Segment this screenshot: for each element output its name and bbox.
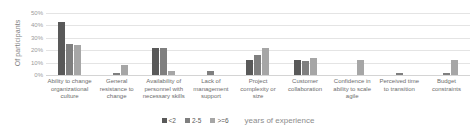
legend-swatch-icon [162, 118, 167, 123]
y-axis-tick-label: 0% [19, 72, 43, 78]
bar [310, 58, 317, 75]
bar-group [93, 13, 140, 75]
bar-group [329, 13, 376, 75]
bar [207, 71, 214, 75]
legend-label: <2 [169, 117, 176, 124]
bar [113, 73, 120, 75]
y-axis-tick-label: 10% [19, 60, 43, 66]
x-axis-category-label: Lack of management support [187, 78, 234, 101]
legend-label: >=6 [217, 117, 228, 124]
bar [152, 48, 159, 75]
legend-caption: years of experience [245, 116, 315, 125]
bar [66, 44, 73, 75]
bar [294, 60, 301, 75]
x-axis-category-label: General resistance to change [93, 78, 140, 101]
bar-groups [46, 13, 470, 75]
bar [246, 60, 253, 75]
bar [396, 73, 403, 75]
bar [262, 48, 269, 75]
bar-group [187, 13, 234, 75]
plot-area: 0%10%20%30%40%50% [46, 13, 470, 75]
gridline: 0% [46, 75, 470, 76]
bar-group [282, 13, 329, 75]
bar [254, 55, 261, 75]
x-axis-category-label: Confidence in ability to scale agile [329, 78, 376, 101]
bar-group [376, 13, 423, 75]
x-axis-category-labels: Ability to change organizational culture… [46, 78, 470, 101]
chart-legend: <22-5>=6years of experience [0, 116, 476, 125]
bar [443, 73, 450, 75]
x-axis-category-label: Ability to change organizational culture [46, 78, 93, 101]
legend-swatch-icon [210, 118, 215, 123]
x-axis-category-label: Budget constraints [423, 78, 470, 101]
bar [121, 65, 128, 75]
y-axis-tick-label: 20% [19, 47, 43, 53]
bar [357, 60, 364, 75]
y-axis-tick-label: 30% [19, 35, 43, 41]
x-axis-category-label: Availability of personnel with necessary… [140, 78, 187, 101]
legend-swatch-icon [185, 118, 190, 123]
bar [160, 48, 167, 75]
bar [74, 45, 81, 75]
legend-item[interactable]: 2-5 [185, 117, 201, 124]
bar-group [423, 13, 470, 75]
bar [451, 60, 458, 75]
bar-group [140, 13, 187, 75]
legend-item[interactable]: <2 [162, 117, 176, 124]
y-axis-tick-label: 50% [19, 10, 43, 16]
bar [58, 22, 65, 75]
legend-item[interactable]: >=6 [210, 117, 228, 124]
bar [302, 61, 309, 75]
x-axis-category-label: Perceived time to transition [376, 78, 423, 101]
x-axis-category-label: Project complexity or size [234, 78, 281, 101]
legend-label: 2-5 [192, 117, 201, 124]
bar-chart: Of participants 0%10%20%30%40%50% Abilit… [0, 0, 476, 134]
y-axis-tick-label: 40% [19, 22, 43, 28]
bar-group [46, 13, 93, 75]
x-axis-category-label: Customer collaboration [282, 78, 329, 101]
bar-group [234, 13, 281, 75]
bar [168, 71, 175, 75]
